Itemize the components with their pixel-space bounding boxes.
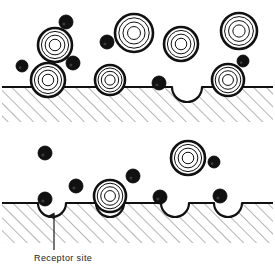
bottom-panel-dark-particle-2 xyxy=(126,169,140,183)
bottom-panel-bound-ring-0-outer-ring xyxy=(94,180,126,212)
receptor-site-label: Receptor site xyxy=(34,253,92,263)
top-panel-dark-particle-4-speckle xyxy=(240,61,243,64)
bottom-panel-dark-particle-1-speckle xyxy=(72,186,75,189)
bottom-panel-dark-particle-5-speckle xyxy=(216,196,219,199)
bottom-panel-dark-particle-6 xyxy=(38,192,52,206)
bottom-panel-dark-particle-2-speckle xyxy=(129,176,132,179)
top-panel-free-ring-1-outer-ring xyxy=(115,14,153,52)
bottom-panel-dark-particle-0-speckle xyxy=(41,153,44,156)
top-panel-dark-particle-0-speckle xyxy=(62,22,65,25)
top-panel-bound-ring-2-outer-ring xyxy=(212,64,244,96)
diagram-canvas: Receptor site xyxy=(0,0,275,268)
bottom-panel-dark-particle-1 xyxy=(69,179,83,193)
top-panel-dark-particle-2 xyxy=(66,56,80,70)
top-panel-dark-particle-3-speckle xyxy=(19,66,22,69)
bottom-panel-dark-particle-6-speckle xyxy=(41,199,44,202)
top-panel-dark-particle-3 xyxy=(16,60,28,72)
top-panel-dark-particle-2-speckle xyxy=(69,63,72,66)
top-panel-free-ring-0-outer-ring xyxy=(38,28,72,62)
top-panel-free-ring-3-outer-ring xyxy=(221,13,257,49)
bottom-panel-dark-particle-4-speckle xyxy=(156,197,159,200)
bottom-panel-dark-particle-3 xyxy=(208,156,220,168)
bottom-panel-free-ring-0-outer-ring xyxy=(171,141,205,175)
top-panel-dark-particle-4 xyxy=(237,55,249,67)
receptor-site-diagram: Receptor site xyxy=(0,0,275,268)
top-panel-bound-ring-0-outer-ring xyxy=(31,63,65,97)
bottom-panel-dark-particle-0 xyxy=(38,146,52,160)
top-panel-free-ring-2-outer-ring xyxy=(164,27,198,61)
top-panel-dark-particle-1-speckle xyxy=(103,42,106,45)
top-panel-dark-particle-1 xyxy=(100,35,114,49)
bottom-panel-dark-particle-3-speckle xyxy=(211,162,214,165)
top-panel-bound-ring-1-outer-ring xyxy=(95,65,125,95)
bottom-panel-dark-particle-5 xyxy=(213,189,227,203)
top-panel-dark-particle-0 xyxy=(59,15,73,29)
